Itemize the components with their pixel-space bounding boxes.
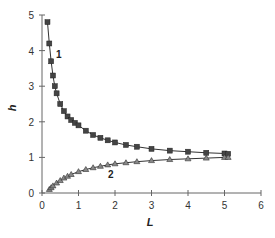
y-tick-label: 5 — [28, 10, 34, 21]
x-tick-label: 6 — [258, 200, 264, 211]
x-axis-label: L — [147, 216, 154, 228]
series-1-line — [47, 22, 228, 154]
series-1-point — [134, 144, 139, 149]
y-tick-label: 1 — [28, 152, 34, 163]
series-2-annotation: 2 — [108, 169, 114, 180]
series-1-point — [149, 146, 154, 151]
series-1-point — [45, 20, 50, 25]
marks — [45, 20, 231, 192]
x-tick-label: 5 — [222, 200, 228, 211]
series-1-point — [49, 59, 54, 64]
y-tick-label: 3 — [28, 81, 34, 92]
series-1-point — [58, 102, 63, 107]
series-1-point — [204, 150, 209, 155]
y-tick-label: 0 — [28, 188, 34, 199]
y-tick-label: 4 — [28, 46, 34, 57]
x-tick-label: 3 — [149, 200, 155, 211]
chart: 0123456012345 1 2 L h — [0, 0, 275, 238]
series-1-point — [167, 148, 172, 153]
series-1-point — [98, 135, 103, 140]
series-1-point — [105, 138, 110, 143]
x-tick-label: 0 — [39, 200, 45, 211]
series-1-point — [52, 84, 57, 89]
series-1-point — [76, 123, 81, 128]
x-tick-label: 2 — [112, 200, 118, 211]
x-tick-label: 4 — [185, 200, 191, 211]
series-1-point — [83, 128, 88, 133]
series-1-point — [54, 91, 59, 96]
series-1-point — [113, 140, 118, 145]
series-1-point — [47, 41, 52, 46]
y-tick-label: 2 — [28, 117, 34, 128]
series-1-point — [50, 73, 55, 78]
x-tick-label: 1 — [76, 200, 82, 211]
series-1-annotation: 1 — [56, 49, 62, 60]
series-1-point — [123, 142, 128, 147]
series-1-point — [61, 109, 66, 114]
y-axis-label: h — [6, 104, 18, 111]
series-1-point — [91, 132, 96, 137]
series-1-point — [186, 149, 191, 154]
